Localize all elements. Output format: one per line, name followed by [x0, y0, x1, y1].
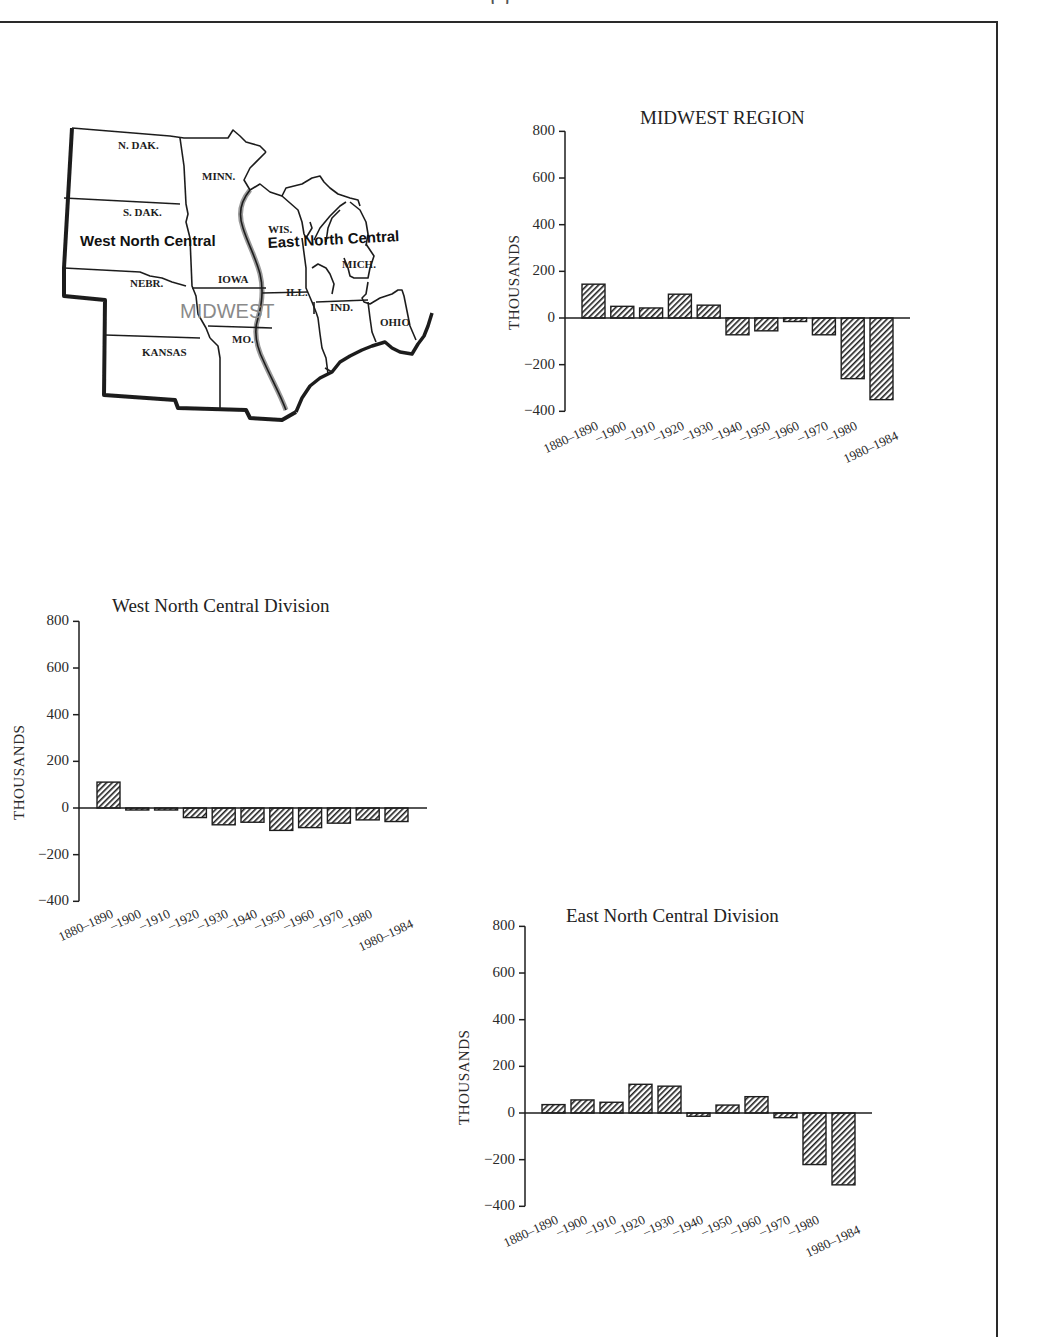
bar	[716, 1105, 739, 1113]
bar	[803, 1113, 826, 1165]
chart-east-north-central-division: East North Central DivisionTHOUSANDS8006…	[0, 0, 1040, 1337]
bar	[774, 1113, 797, 1118]
bar	[571, 1100, 594, 1113]
y-tick-label: 600	[469, 964, 515, 981]
bar	[542, 1105, 565, 1113]
y-tick-label: −400	[469, 1197, 515, 1214]
bar	[832, 1113, 855, 1185]
bar	[600, 1102, 623, 1113]
y-tick-label: 200	[469, 1057, 515, 1074]
y-tick-label: 800	[469, 917, 515, 934]
bar	[745, 1097, 768, 1113]
bar	[629, 1084, 652, 1113]
chart-title: East North Central Division	[566, 905, 779, 927]
y-tick-label: 0	[469, 1104, 515, 1121]
chart-plot-area	[0, 0, 1040, 1337]
y-tick-label: 400	[469, 1011, 515, 1028]
y-tick-label: −200	[469, 1151, 515, 1168]
bar	[687, 1113, 710, 1116]
bar	[658, 1086, 681, 1113]
